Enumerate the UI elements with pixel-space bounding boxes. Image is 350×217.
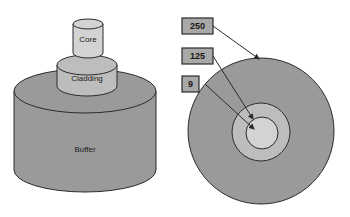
buffer-callout-value: 250 — [190, 21, 205, 31]
core-ring — [246, 117, 278, 149]
core-cylinder-top — [73, 19, 103, 29]
core-cylinder: Core — [73, 19, 103, 58]
cladding-callout-value: 125 — [190, 51, 205, 61]
cladding-cylinder: Cladding — [57, 55, 117, 96]
buffer-label: Buffer — [74, 145, 96, 154]
stacked-cylinder-svg: Buffer Cladding Core — [0, 0, 175, 217]
stacked-cylinder-diagram: Buffer Cladding Core — [0, 0, 175, 217]
core-callout-value: 9 — [188, 79, 193, 89]
figure-canvas: Buffer Cladding Core — [0, 0, 350, 217]
core-label: Core — [79, 35, 97, 44]
cladding-callout[interactable]: 125 — [182, 48, 213, 64]
buffer-callout[interactable]: 250 — [182, 18, 213, 34]
buffer-leader-line — [213, 26, 259, 59]
cross-section-svg: 250 125 9 — [175, 0, 350, 217]
cladding-label: Cladding — [71, 74, 103, 83]
core-callout[interactable]: 9 — [182, 76, 199, 92]
cross-section-diagram: 250 125 9 — [175, 0, 350, 217]
